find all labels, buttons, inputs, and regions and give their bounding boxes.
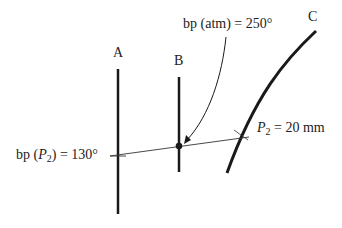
label-a: A [113,46,123,60]
bp-p2-unit: ° [92,147,98,162]
label-b: B [174,54,183,68]
p2-var: P [257,120,266,135]
bp-p2-suffix: ) = [52,147,72,162]
bp-atm-value: 250 [246,16,267,31]
bp-p2-sub: 2 [47,153,52,164]
p2-eq: = [271,120,286,135]
bp-p2-value: 130 [71,147,92,162]
arrow-curve [187,37,226,140]
p2-label: P2 = 20 mm [257,121,325,135]
p2-value: 20 mm [285,120,324,135]
label-c: C [308,10,317,24]
bp-p2-label: bp (P2) = 130° [16,148,98,162]
bp-atm-label: bp (atm) = 250° [183,17,272,31]
bp-p2-var: P [38,147,47,162]
bp-atm-prefix: bp (atm) = [183,16,246,31]
bp-atm-unit: ° [267,16,273,31]
intersection-dot [176,143,183,150]
curve-c [227,31,316,173]
p2-sub: 2 [266,126,271,137]
bp-p2-prefix: bp ( [16,147,38,162]
nomograph-canvas [0,0,342,228]
